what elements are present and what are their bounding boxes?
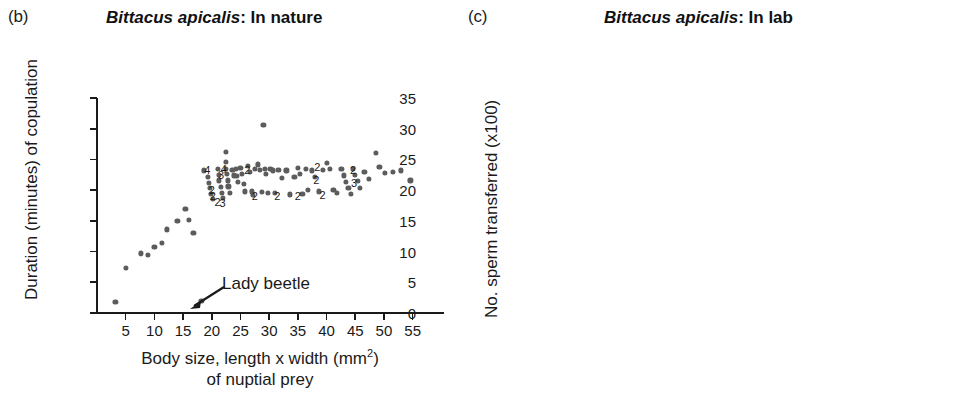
- panel-b-x-tick: [297, 313, 299, 320]
- panel-b-data-point: [341, 173, 346, 178]
- panel-b-x-tick: [182, 313, 184, 320]
- panel-b-data-point: [298, 172, 303, 177]
- panel-b-data-point: [295, 165, 300, 170]
- panel-b-x-tick-label: 15: [175, 322, 192, 339]
- panel-b-data-point: [223, 149, 228, 154]
- panel-b-data-point: [279, 175, 284, 180]
- panel-c-y-axis-title: No. sperm transferred (x100): [482, 100, 502, 318]
- panel-b-x-tick: [211, 313, 213, 320]
- panel-b-x-tick-label: 25: [232, 322, 249, 339]
- panel-b-x-tick-label: 5: [122, 322, 130, 339]
- panel-b-data-point: [226, 184, 231, 189]
- panel-b-y-tick: [90, 281, 97, 283]
- panel-b-y-tick: [90, 128, 97, 130]
- panel-b-data-point: [276, 167, 281, 172]
- panel-c-in-lab: (c) Bittacus apicalis: In lab No. sperm …: [462, 0, 958, 409]
- panel-b-data-point: [138, 251, 143, 256]
- panel-b-y-tick-label: 15: [399, 212, 416, 229]
- panel-b-data-point: [391, 169, 396, 174]
- panel-b-overlap-count-label: 2: [274, 191, 280, 202]
- panel-b-data-point: [191, 231, 196, 236]
- panel-b-data-point: [264, 172, 269, 177]
- panel-b-data-point: [366, 176, 371, 181]
- panel-b-data-point: [260, 189, 265, 194]
- panel-b-overlap-count-label: 4: [204, 164, 210, 175]
- panel-b-x-tick-label: 10: [146, 322, 163, 339]
- panel-b-y-tick: [90, 312, 97, 314]
- panel-b-y-tick-label: 30: [399, 120, 416, 137]
- panel-b-x-axis-title-line2: of nuptial prey: [207, 370, 314, 389]
- panel-b-x-tick: [354, 313, 356, 320]
- panel-b-y-tick: [90, 220, 97, 222]
- panel-b-data-point: [262, 166, 267, 171]
- panel-b-x-tick-label: 40: [318, 322, 335, 339]
- panel-b-x-axis-title-line1: Body size, length x width (mm: [141, 349, 367, 368]
- panel-c-title: Bittacus apicalis: In lab: [604, 8, 793, 28]
- panel-b-x-tick: [125, 313, 127, 320]
- panel-b-data-point: [175, 218, 180, 223]
- panel-b-data-point: [327, 167, 332, 172]
- panel-b-data-point: [242, 189, 247, 194]
- panel-b-data-point: [241, 181, 246, 186]
- panel-b-y-axis-title: Duration (minutes) of copulation: [22, 59, 42, 300]
- panel-b-data-point: [303, 167, 308, 172]
- panel-b-y-tick-label: 35: [399, 90, 416, 107]
- panel-b-data-point: [159, 240, 164, 245]
- panel-c-title-rest: : In lab: [738, 8, 793, 27]
- panel-b-x-tick: [383, 313, 385, 320]
- panel-b-overlap-count-label: 2: [314, 161, 320, 172]
- panel-b-data-point: [362, 169, 367, 174]
- panel-b-x-tick-label: 30: [261, 322, 278, 339]
- panel-b-title-species: Bittacus apicalis: [106, 8, 240, 27]
- panel-b-y-tick: [90, 159, 97, 161]
- panel-b-overlap-count-label: 2: [319, 190, 325, 201]
- panel-b-data-point: [113, 299, 118, 304]
- panel-b-x-tick-label: 45: [347, 322, 364, 339]
- panel-c-title-species: Bittacus apicalis: [604, 8, 738, 27]
- panel-b-data-point: [234, 173, 239, 178]
- panel-b-x-axis-title: Body size, length x width (mm2) of nupti…: [60, 347, 460, 390]
- panel-b-x-tick: [240, 313, 242, 320]
- panel-b-data-point: [123, 265, 128, 270]
- panel-b-data-point: [228, 190, 233, 195]
- panel-b-overlap-count-label: 3: [351, 177, 357, 188]
- panel-b-data-point: [324, 161, 329, 166]
- panel-b-overlap-count-label: 2: [295, 190, 301, 201]
- panel-b-data-point: [265, 190, 270, 195]
- panel-b-x-tick: [268, 313, 270, 320]
- panel-b-y-tick-label: 20: [399, 182, 416, 199]
- panel-b-x-tick: [412, 313, 414, 320]
- figure-root: (b) Bittacus apicalis: In nature Duratio…: [0, 0, 958, 409]
- panel-b-data-point: [348, 191, 353, 196]
- panel-b-x-tick-label: 35: [290, 322, 307, 339]
- panel-b-y-tick-label: 5: [408, 274, 416, 291]
- panel-b-data-point: [399, 168, 404, 173]
- panel-b-letter: (b): [8, 7, 28, 27]
- panel-b-data-point: [284, 168, 289, 173]
- panel-b-y-tick: [90, 251, 97, 253]
- panel-b-data-point: [183, 206, 188, 211]
- panel-b-overlap-count-label: 2: [350, 164, 356, 175]
- panel-b-overlap-count-label: 2: [313, 175, 319, 186]
- panel-b-data-point: [334, 190, 339, 195]
- panel-b-x-tick-label: 50: [376, 322, 393, 339]
- panel-b-data-point: [373, 150, 378, 155]
- panel-b-x-tick-label: 20: [203, 322, 220, 339]
- panel-b-x-tick: [326, 313, 328, 320]
- panel-b-overlap-count-label: 3: [218, 170, 224, 181]
- panel-b-y-tick: [90, 97, 97, 99]
- panel-b-title-rest: : In nature: [240, 8, 322, 27]
- panel-b-overlap-count-label: 3: [220, 198, 226, 209]
- panel-b-data-point: [218, 184, 223, 189]
- panel-b-data-point: [343, 180, 348, 185]
- panel-b-y-tick-label: 10: [399, 243, 416, 260]
- panel-b-data-point: [145, 252, 150, 257]
- panel-b-overlap-count-label: 2: [252, 190, 258, 201]
- panel-b-data-point: [255, 162, 260, 167]
- panel-b-data-point: [238, 165, 243, 170]
- panel-b-data-point: [292, 174, 297, 179]
- panel-b-y-tick-label: 25: [399, 151, 416, 168]
- panel-b-data-point: [186, 217, 191, 222]
- panel-b-data-point: [261, 122, 266, 127]
- panel-b-data-point: [377, 164, 382, 169]
